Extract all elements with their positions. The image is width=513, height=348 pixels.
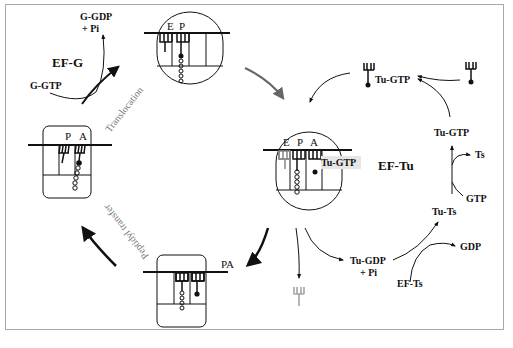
arrow-center-to-bottom: [248, 228, 268, 265]
trna-icon-free: [466, 62, 476, 85]
site-label-a: A: [79, 130, 87, 142]
site-label-p: P: [179, 20, 185, 32]
gdp-label: GDP: [460, 241, 481, 252]
translocation-label: Translocation: [103, 84, 145, 134]
g-gdp-label: G-GDP: [80, 11, 112, 22]
arrow-to-tu-ts: [393, 222, 438, 260]
arrow-gtp-in: [452, 182, 463, 196]
ribosome-bottom: PA: [143, 255, 234, 327]
arrow-bottom-to-left: [83, 228, 116, 266]
site-label-a: A: [310, 136, 318, 148]
site-label-e: E: [283, 136, 290, 148]
ef-g-label: EF-G: [52, 55, 83, 70]
site-label-p: P: [297, 136, 303, 148]
ef-tu-label: EF-Tu: [378, 158, 414, 173]
gtp-label: GTP: [466, 193, 487, 204]
arrow-tu-gtp-up: [418, 79, 450, 117]
arrow-to-ribosome: [310, 73, 350, 102]
elongation-cycle-diagram: E P E P A Tu-GTP: [0, 0, 513, 348]
tu-gtp-label-top: Tu-GTP: [375, 74, 410, 85]
site-label-p: P: [65, 130, 71, 142]
ef-ts-label: EF-Ts: [397, 278, 423, 289]
ribosome-top: E P: [144, 12, 230, 84]
arrow-left-to-top: [82, 67, 118, 104]
ribosome-center: E P A Tu-GTP: [263, 132, 361, 210]
tu-gtp-label-right: Tu-GTP: [434, 127, 469, 138]
site-label-pa: PA: [221, 258, 234, 270]
tu-ts-label: Tu-Ts: [432, 206, 456, 217]
pi-label-g: + Pi: [82, 23, 99, 34]
arrow-gdp-release: [410, 243, 455, 282]
peptidyl-transfer-label: Peptidyl transfer: [101, 202, 151, 262]
arrow-release-tu-gdp: [305, 228, 343, 260]
tu-gdp-label: Tu-GDP: [350, 255, 386, 266]
trna-icon-tu-gtp: [364, 63, 374, 88]
g-gtp-label: G-GTP: [30, 80, 62, 91]
ribosome-left: P A: [28, 126, 112, 198]
pi-label-tu: + Pi: [360, 267, 377, 278]
tu-gtp-label-center: Tu-GTP: [321, 157, 356, 168]
trna-icon-released: [294, 287, 304, 306]
arrow-top-to-center: [245, 68, 283, 98]
arrow-ts-release: [452, 154, 470, 165]
site-label-e: E: [167, 20, 174, 32]
arrow-release-trna: [296, 228, 299, 278]
ts-label: Ts: [475, 149, 485, 160]
arrow-trna-join: [418, 76, 460, 81]
